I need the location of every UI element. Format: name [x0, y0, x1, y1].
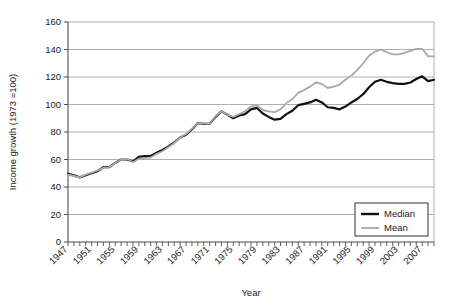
x-tick-label: 1971 — [188, 244, 211, 267]
x-tick-label: 2007 — [401, 244, 424, 267]
y-axis-title: Income growth (1973 =100) — [7, 74, 18, 190]
y-tick-label: 80 — [50, 126, 61, 137]
x-axis-ticks: 1947195119551959196319671971197519791983… — [47, 242, 434, 266]
x-tick-label: 1999 — [354, 244, 377, 267]
chart-container: 0204060801001201401601947195119551959196… — [0, 0, 460, 307]
x-tick-label: 1987 — [283, 244, 306, 267]
x-tick-label: 1975 — [212, 244, 235, 267]
x-tick-label: 2003 — [377, 244, 400, 267]
y-axis-ticks: 020406080100120140160 — [45, 16, 68, 247]
x-tick-label: 1947 — [47, 244, 70, 267]
y-tick-label: 40 — [50, 181, 61, 192]
x-tick-label: 1979 — [236, 244, 259, 267]
x-tick-label: 1951 — [70, 244, 93, 267]
y-tick-label: 120 — [45, 71, 61, 82]
y-tick-label: 60 — [50, 154, 61, 165]
x-tick-label: 1959 — [118, 244, 141, 267]
y-tick-label: 20 — [50, 209, 61, 220]
x-tick-label: 1991 — [306, 244, 329, 267]
y-tick-label: 160 — [45, 16, 61, 27]
x-tick-label: 1955 — [94, 244, 117, 267]
y-tick-label: 140 — [45, 44, 61, 55]
y-tick-label: 100 — [45, 99, 61, 110]
x-tick-label: 1963 — [141, 244, 164, 267]
x-tick-label: 1967 — [165, 244, 188, 267]
chart-legend: MedianMean — [355, 203, 428, 236]
income-growth-line-chart: 0204060801001201401601947195119551959196… — [0, 0, 460, 307]
legend-label-median: Median — [384, 208, 415, 219]
legend-label-mean: Mean — [384, 222, 408, 233]
x-tick-label: 1983 — [259, 244, 282, 267]
x-tick-label: 1995 — [330, 244, 353, 267]
x-axis-title: Year — [241, 287, 260, 298]
